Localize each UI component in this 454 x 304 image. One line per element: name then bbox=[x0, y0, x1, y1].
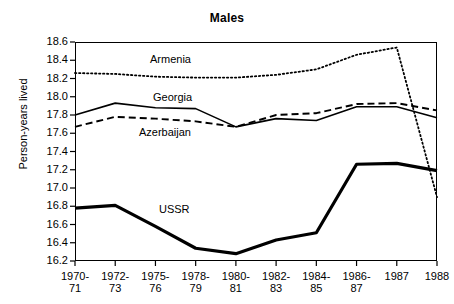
series-label-armenia: Armenia bbox=[150, 53, 191, 65]
y-tick-label: 16.2 bbox=[34, 255, 68, 266]
y-tick-label: 18.2 bbox=[34, 73, 68, 84]
series-label-azerbaijan: Azerbaijan bbox=[139, 126, 191, 138]
y-axis-tick-labels: 16.216.416.616.817.017.217.417.617.818.0… bbox=[28, 0, 68, 304]
series-label-georgia: Georgia bbox=[153, 91, 192, 103]
x-tick-label: 1988 bbox=[411, 270, 454, 282]
chart-title: Males bbox=[0, 11, 454, 25]
y-tick-label: 17.0 bbox=[34, 182, 68, 193]
series-label-ussr: USSR bbox=[159, 203, 190, 215]
y-tick-label: 16.6 bbox=[34, 219, 68, 230]
y-tick-label: 17.6 bbox=[34, 127, 68, 138]
y-tick-label: 18.0 bbox=[34, 91, 68, 102]
y-tick-label: 17.4 bbox=[34, 146, 68, 157]
y-tick-label: 17.2 bbox=[34, 164, 68, 175]
y-tick-label: 18.4 bbox=[34, 54, 68, 65]
chart-container: Males Person-years lived 16.216.416.616.… bbox=[0, 0, 454, 304]
y-tick-label: 18.6 bbox=[34, 36, 68, 47]
plot-area bbox=[75, 42, 437, 261]
y-tick-label: 16.4 bbox=[34, 237, 68, 248]
y-tick-label: 16.8 bbox=[34, 200, 68, 211]
y-tick-label: 17.8 bbox=[34, 109, 68, 120]
